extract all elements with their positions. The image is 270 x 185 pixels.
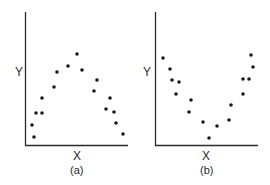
data-point — [229, 103, 233, 107]
data-point — [247, 77, 251, 81]
panel-a-caption: (a) — [70, 164, 83, 176]
panel-b: Y X (b) — [143, 12, 258, 176]
panel-b-caption: (b) — [200, 164, 213, 176]
panel-a-points — [30, 52, 125, 139]
panel-b-y-label: Y — [143, 65, 151, 79]
data-point — [201, 120, 205, 124]
data-point — [189, 98, 193, 102]
panel-a: Y X (a) — [15, 12, 128, 176]
panel-a-axes — [26, 12, 129, 146]
data-point — [215, 124, 219, 128]
data-point — [177, 80, 181, 84]
panel-b-x-label: X — [202, 149, 210, 163]
data-point — [32, 135, 36, 139]
data-point — [104, 107, 108, 111]
data-point — [52, 85, 56, 89]
data-point — [121, 132, 125, 136]
data-point — [249, 53, 253, 57]
data-point — [75, 52, 79, 56]
data-point — [174, 92, 178, 96]
panel-b-points — [161, 53, 255, 140]
data-point — [114, 121, 118, 125]
data-point — [168, 67, 172, 71]
data-point — [66, 64, 70, 68]
panel-a-x-label: X — [73, 149, 81, 163]
data-point — [34, 111, 38, 115]
data-point — [80, 68, 84, 72]
data-point — [108, 96, 112, 100]
data-point — [40, 96, 44, 100]
data-point — [207, 136, 211, 140]
data-point — [241, 77, 245, 81]
data-point — [55, 70, 59, 74]
data-point — [112, 110, 116, 114]
data-point — [241, 92, 245, 96]
data-point — [92, 89, 96, 93]
data-point — [40, 111, 44, 115]
data-point — [227, 118, 231, 122]
panel-a-y-label: Y — [15, 65, 23, 79]
data-point — [187, 110, 191, 114]
figure: Y X (a) Y X (b) — [0, 0, 270, 185]
data-point — [30, 123, 34, 127]
data-point — [170, 78, 174, 82]
data-point — [95, 78, 99, 82]
data-point — [161, 56, 165, 60]
data-point — [251, 65, 255, 69]
